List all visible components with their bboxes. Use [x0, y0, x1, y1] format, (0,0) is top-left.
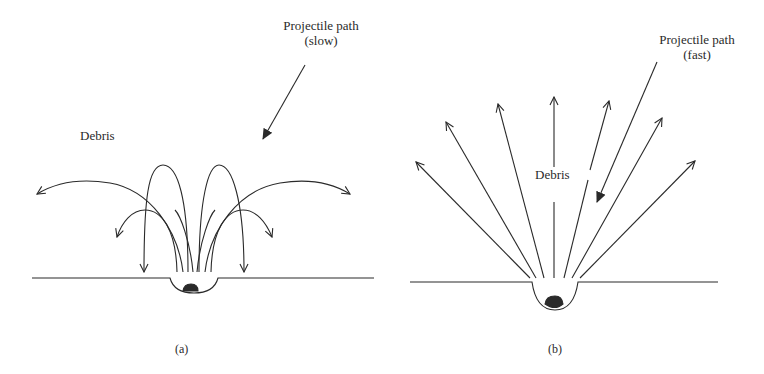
- caption-b: (b): [548, 342, 562, 357]
- debris-ray-6: [572, 118, 662, 278]
- caption-a: (a): [175, 342, 188, 357]
- projectile-label-a-line1: Projectile path: [268, 18, 374, 33]
- projectile-label-b: Projectile path (fast): [644, 32, 750, 62]
- projectile-label-a-line2: (slow): [268, 33, 374, 48]
- projectile-blob-b: [545, 296, 563, 308]
- debris-ray-5b: [590, 101, 609, 170]
- panel-b: [410, 62, 718, 310]
- debris-arc-right-outer: [205, 181, 350, 272]
- debris-ray-2: [446, 122, 536, 278]
- projectile-label-b-line2: (fast): [644, 47, 750, 62]
- debris-arc-right-tall: [199, 165, 244, 272]
- projectile-blob-a: [183, 284, 198, 291]
- panel-a: [32, 65, 374, 293]
- debris-ray-5a: [564, 180, 588, 278]
- debris-arc-left-small: [117, 210, 177, 272]
- debris-arc-left-inner: [175, 210, 193, 272]
- debris-arc-left-tall: [144, 165, 188, 272]
- projectile-path-arrow-a: [263, 65, 305, 139]
- debris-ray-1: [416, 162, 530, 278]
- ground-surface-a: [32, 278, 374, 293]
- projectile-label-a: Projectile path (slow): [268, 18, 374, 48]
- ground-surface-b: [410, 282, 718, 310]
- debris-label-b: Debris: [535, 167, 570, 182]
- debris-arc-left-outer: [37, 181, 183, 272]
- projectile-label-b-line1: Projectile path: [644, 32, 750, 47]
- debris-label-a: Debris: [80, 128, 115, 143]
- debris-ray-7: [580, 161, 695, 278]
